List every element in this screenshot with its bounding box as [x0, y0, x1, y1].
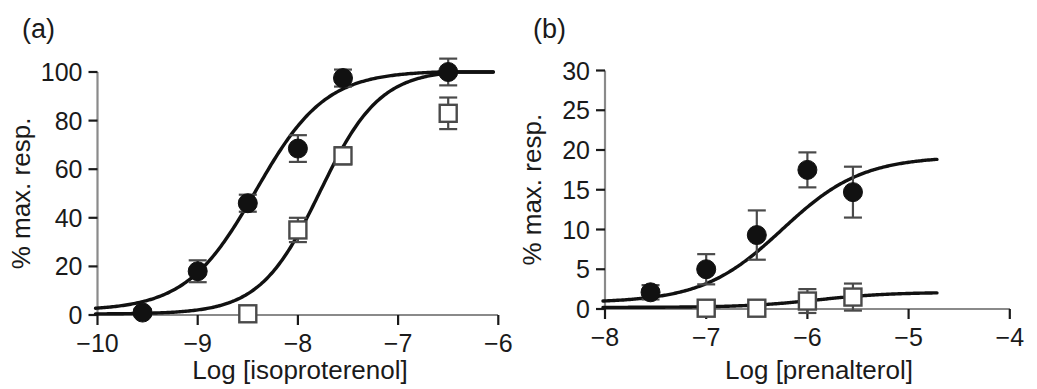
x-tick-label: −7 [384, 329, 413, 357]
x-tick-label: −8 [284, 329, 313, 357]
data-point-filled-circle [843, 183, 862, 202]
data-point-filled-circle [439, 63, 458, 82]
y-tick-label: 20 [562, 136, 590, 164]
data-point-open-square [289, 221, 306, 238]
data-point-filled-circle [288, 139, 307, 158]
axes-b: 051015202530−8−7−6−5−4Log [prenalterol]%… [519, 57, 1024, 386]
y-tick-label: 40 [55, 204, 83, 232]
y-tick-label: 20 [55, 252, 83, 280]
data-point-filled-circle [641, 283, 660, 302]
y-tick-label: 60 [55, 155, 83, 183]
series-a-filled-circles [133, 59, 458, 322]
x-axis-title: Log [isoproterenol] [192, 355, 407, 385]
y-tick-label: 10 [562, 216, 590, 244]
y-tick-label: 25 [562, 96, 590, 124]
plot-area-b: 051015202530−8−7−6−5−4Log [prenalterol]%… [519, 57, 1024, 386]
x-tick-label: −10 [76, 329, 118, 357]
data-point-open-square [844, 289, 861, 306]
fit-curve-a-filled-circles [96, 72, 494, 308]
series-b-open-squares [697, 284, 862, 317]
series-a-open-squares [239, 98, 457, 323]
data-point-filled-circle [238, 194, 257, 213]
y-tick-label: 0 [69, 301, 83, 329]
fit-curve-a-open-squares [96, 72, 494, 314]
y-tick-label: 80 [55, 107, 83, 135]
x-tick-label: −5 [894, 323, 923, 351]
series-b-filled-circles [641, 152, 862, 301]
panel-a: (a) 020406080100−10−9−8−7−6Log [isoprote… [0, 0, 519, 389]
data-point-filled-circle [747, 226, 766, 245]
data-point-filled-circle [188, 262, 207, 281]
y-tick-label: 100 [41, 58, 83, 86]
x-tick-label: −7 [692, 323, 721, 351]
data-point-filled-circle [798, 160, 817, 179]
x-tick-label: −6 [484, 329, 513, 357]
y-tick-label: 30 [562, 57, 590, 85]
y-axis-title: % max. resp. [6, 118, 36, 270]
y-tick-label: 0 [576, 295, 590, 323]
data-point-open-square [239, 305, 256, 322]
data-point-open-square [440, 105, 457, 122]
panel-b: (b) 051015202530−8−7−6−5−4Log [prenalter… [519, 0, 1037, 389]
y-tick-label: 5 [576, 255, 590, 283]
x-tick-label: −6 [793, 323, 822, 351]
fit-curve-b-filled-circles [603, 159, 937, 301]
y-axis-title: % max. resp. [519, 114, 547, 266]
data-point-filled-circle [333, 69, 352, 88]
x-tick-label: −8 [591, 323, 620, 351]
panel-b-plot: 051015202530−8−7−6−5−4Log [prenalterol]%… [519, 0, 1037, 389]
data-point-open-square [334, 147, 351, 164]
data-point-filled-circle [697, 260, 716, 279]
x-axis-title: Log [prenalterol] [725, 355, 913, 385]
data-point-open-square [799, 293, 816, 310]
y-tick-label: 15 [562, 176, 590, 204]
figure-root: (a) 020406080100−10−9−8−7−6Log [isoprote… [0, 0, 1037, 389]
data-point-open-square [748, 300, 765, 317]
axes-a: 020406080100−10−9−8−7−6Log [isoprotereno… [6, 58, 513, 385]
x-tick-label: −4 [996, 323, 1025, 351]
data-point-filled-circle [133, 303, 152, 322]
panel-a-plot: 020406080100−10−9−8−7−6Log [isoprotereno… [0, 0, 519, 389]
data-point-open-square [698, 300, 715, 317]
x-tick-label: −9 [183, 329, 212, 357]
plot-area-a: 020406080100−10−9−8−7−6Log [isoprotereno… [6, 58, 513, 385]
